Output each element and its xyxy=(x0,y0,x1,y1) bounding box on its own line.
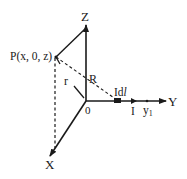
y1-label-subscript: 1 xyxy=(149,109,153,118)
r-vector-line-lower xyxy=(74,86,84,98)
current-element-label-italic: l xyxy=(124,86,127,98)
r-label: r xyxy=(64,74,68,88)
biot-savart-diagram: Z Y X 0 P(x, 0, z) r R Idl I y1 xyxy=(0,0,187,179)
point-p-marker xyxy=(54,55,57,58)
current-arrow-icon xyxy=(131,98,137,104)
y1-label: y1 xyxy=(143,104,153,118)
current-label: I xyxy=(131,105,135,117)
point-p-label: P(x, 0, z) xyxy=(10,50,52,63)
current-element-label: Idl xyxy=(114,86,127,98)
current-element-label-prefix: Id xyxy=(114,86,124,98)
x-axis-label: X xyxy=(45,157,55,172)
y1-tick-marker xyxy=(146,100,149,103)
p-to-z-line xyxy=(56,28,86,57)
R-label: R xyxy=(89,72,97,86)
y-axis-label: Y xyxy=(168,94,178,109)
diagram-canvas: Z Y X 0 P(x, 0, z) r R Idl I y1 xyxy=(0,0,187,179)
current-element-block xyxy=(114,98,121,103)
z-axis-label: Z xyxy=(81,9,89,24)
origin-label: 0 xyxy=(85,104,91,116)
